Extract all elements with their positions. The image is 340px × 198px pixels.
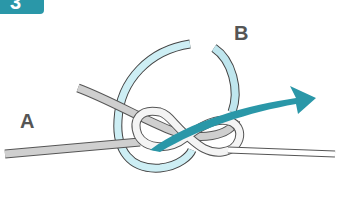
knot-illustration — [0, 0, 340, 198]
knot-diagram: 3 A B — [0, 0, 340, 198]
